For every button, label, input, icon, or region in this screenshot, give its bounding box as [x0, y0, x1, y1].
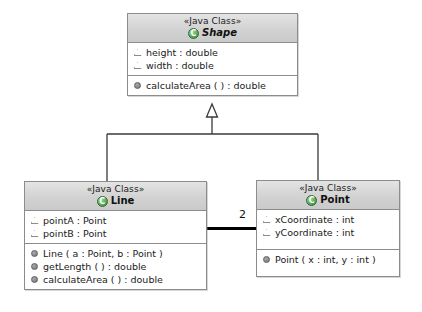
protected-visibility-icon — [133, 48, 142, 57]
class-stereotype-line: «Java Class» — [25, 184, 206, 195]
association-multiplicity-label: 2 — [239, 209, 246, 221]
operation-label: calculateArea ( ) : double — [146, 79, 266, 92]
attribute-row[interactable]: pointA : Point — [25, 214, 206, 227]
attribute-label: pointB : Point — [43, 227, 107, 240]
operation-row[interactable]: Line ( a : Point, b : Point ) — [25, 247, 206, 260]
generalization-arrowhead — [207, 104, 218, 117]
operation-row[interactable]: calculateArea ( ) : double — [25, 273, 206, 286]
attribute-row[interactable]: yCoordinate : int — [257, 226, 399, 239]
generalization-connector — [107, 117, 318, 181]
operation-label: getLength ( ) : double — [43, 260, 146, 273]
attribute-row[interactable]: width : double — [128, 59, 297, 72]
operation-label: Line ( a : Point, b : Point ) — [43, 247, 163, 260]
operation-row[interactable]: getLength ( ) : double — [25, 260, 206, 273]
compartment-spacer — [257, 239, 399, 246]
class-stereotype-shape: «Java Class» — [128, 16, 297, 27]
operation-label: calculateArea ( ) : double — [43, 273, 163, 286]
attribute-row[interactable]: xCoordinate : int — [257, 213, 399, 226]
operation-label: Point ( x : int, y : int ) — [275, 253, 376, 266]
attribute-label: pointA : Point — [43, 214, 107, 227]
attribute-label: xCoordinate : int — [275, 213, 354, 226]
public-visibility-icon — [30, 262, 39, 271]
operation-row[interactable]: calculateArea ( ) : double — [128, 79, 297, 92]
public-visibility-icon — [262, 255, 271, 264]
class-box-point[interactable]: «Java Class» Point xCoordinate : int yCo… — [256, 180, 400, 277]
class-box-line[interactable]: «Java Class» Line pointA : Point pointB … — [24, 181, 207, 290]
attribute-row[interactable]: pointB : Point — [25, 227, 206, 240]
protected-visibility-icon — [262, 215, 271, 224]
protected-visibility-icon — [262, 228, 271, 237]
java-class-icon — [306, 195, 317, 206]
operations-compartment-point: Point ( x : int, y : int ) — [257, 249, 399, 276]
class-title-row-line: Line — [25, 195, 206, 207]
attributes-compartment-point: xCoordinate : int yCoordinate : int — [257, 210, 399, 249]
compartment-spacer — [257, 266, 399, 273]
attribute-row[interactable]: height : double — [128, 46, 297, 59]
class-box-shape[interactable]: «Java Class» Shape height : double width… — [127, 13, 298, 96]
class-name-point: Point — [320, 194, 350, 206]
public-visibility-icon — [30, 275, 39, 284]
attribute-label: width : double — [146, 59, 214, 72]
protected-visibility-icon — [133, 61, 142, 70]
class-title-row-shape: Shape — [128, 27, 297, 39]
attribute-label: yCoordinate : int — [275, 226, 354, 239]
public-visibility-icon — [133, 81, 142, 90]
operations-compartment-shape: calculateArea ( ) : double — [128, 75, 297, 95]
java-class-icon — [188, 28, 199, 39]
class-header-shape: «Java Class» Shape — [128, 14, 297, 43]
class-title-row-point: Point — [257, 194, 399, 206]
class-name-line: Line — [111, 195, 135, 207]
java-class-icon — [97, 196, 108, 207]
class-stereotype-point: «Java Class» — [257, 183, 399, 194]
attributes-compartment-shape: height : double width : double — [128, 43, 297, 75]
uml-diagram-canvas: 2 «Java Class» Shape height : double wid… — [0, 0, 422, 312]
public-visibility-icon — [30, 249, 39, 258]
class-name-shape: Shape — [202, 27, 237, 39]
protected-visibility-icon — [30, 229, 39, 238]
operation-row[interactable]: Point ( x : int, y : int ) — [257, 253, 399, 266]
attributes-compartment-line: pointA : Point pointB : Point — [25, 211, 206, 243]
operations-compartment-line: Line ( a : Point, b : Point ) getLength … — [25, 243, 206, 289]
class-header-point: «Java Class» Point — [257, 181, 399, 210]
class-header-line: «Java Class» Line — [25, 182, 206, 211]
attribute-label: height : double — [146, 46, 218, 59]
protected-visibility-icon — [30, 216, 39, 225]
